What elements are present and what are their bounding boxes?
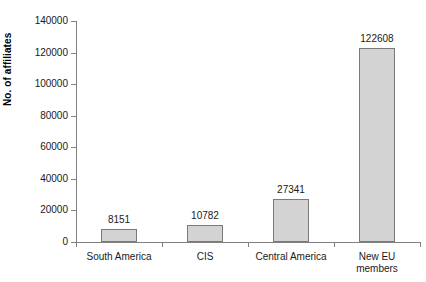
y-axis-tick: [71, 53, 76, 54]
category-label-line: members: [332, 263, 422, 275]
category-label-line: New EU: [332, 251, 422, 263]
bar-1: [101, 229, 137, 242]
x-axis-tick: [162, 243, 163, 247]
bar-3: [273, 199, 309, 242]
category-label: New EUmembers: [332, 251, 422, 275]
category-label: CIS: [160, 251, 250, 263]
x-axis-tick: [334, 243, 335, 247]
bar-value-label: 8151: [79, 215, 159, 225]
y-axis-tick-label: 80000: [8, 111, 68, 121]
category-label: Central America: [246, 251, 336, 263]
y-axis-tick: [71, 84, 76, 85]
bar-4: [359, 48, 395, 242]
y-axis-tick: [71, 147, 76, 148]
y-axis-line: [76, 21, 77, 243]
bar-chart: No. of affiliates 0200004000060000800001…: [0, 0, 426, 282]
y-axis-tick-label: 120000: [8, 48, 68, 58]
y-axis-tick-label: 0: [8, 237, 68, 247]
bar-value-label: 27341: [251, 185, 331, 195]
bar-value-label: 122608: [337, 34, 417, 44]
y-axis-tick: [71, 210, 76, 211]
y-axis-tick-label: 100000: [8, 79, 68, 89]
y-axis-tick-label: 60000: [8, 142, 68, 152]
category-label: South America: [74, 251, 164, 263]
y-axis-tick-label: 140000: [8, 16, 68, 26]
y-axis-tick: [71, 21, 76, 22]
x-axis-tick: [248, 243, 249, 247]
bar-2: [187, 225, 223, 242]
x-axis-tick: [420, 243, 421, 247]
y-axis-tick-label: 40000: [8, 174, 68, 184]
category-label-line: South America: [74, 251, 164, 263]
category-label-line: CIS: [160, 251, 250, 263]
y-axis-tick-label: 20000: [8, 205, 68, 215]
category-label-line: Central America: [246, 251, 336, 263]
x-axis-tick: [76, 243, 77, 247]
y-axis-tick: [71, 116, 76, 117]
bar-value-label: 10782: [165, 211, 245, 221]
y-axis-tick: [71, 179, 76, 180]
